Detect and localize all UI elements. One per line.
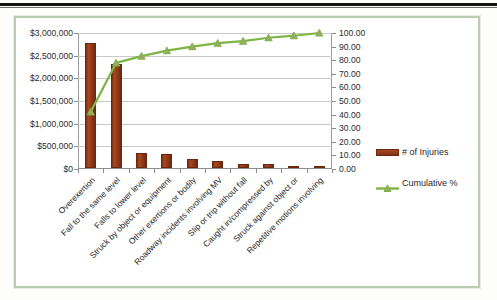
y-axis-left-tick-label: $1,500,000	[30, 96, 73, 106]
y-axis-right-tick	[332, 155, 336, 156]
y-axis-right-tick-label: 60.00	[339, 82, 361, 92]
y-axis-right-tick-label: 90.00	[339, 42, 361, 52]
x-axis-tick	[180, 169, 181, 173]
y-axis-right-tick-label: 30.00	[339, 123, 361, 133]
chart-container[interactable]: $0$500,000$1,000,000$1,500,000$2,000,000…	[14, 16, 480, 288]
y-axis-right-tick	[332, 74, 336, 75]
line-series-cumulative	[78, 33, 332, 169]
y-axis-right-tick	[332, 87, 336, 88]
chart-legend: # of Injuries Cumulative %	[376, 146, 480, 208]
x-axis-tick	[307, 169, 308, 173]
y-axis-left-tick-label: $3,000,000	[30, 28, 73, 38]
y-axis-right-tick-label: 70.00	[339, 69, 361, 79]
y-axis-left-tick-label: $2,000,000	[30, 73, 73, 83]
y-axis-right-tick-label: 80.00	[339, 55, 361, 65]
legend-label-injuries: # of Injuries	[402, 147, 449, 157]
page-top-rule-thin	[0, 7, 497, 8]
x-axis-tick	[129, 169, 130, 173]
y-axis-right-tick-label: 10.00	[339, 150, 361, 160]
y-axis-right-tick	[332, 142, 336, 143]
legend-item-injuries[interactable]: # of Injuries	[376, 146, 480, 158]
x-axis-tick	[154, 169, 155, 173]
legend-item-cumulative[interactable]: Cumulative %	[376, 177, 480, 189]
y-axis-left-tick-label: $0	[63, 164, 73, 174]
y-axis-right-tick	[332, 115, 336, 116]
page-canvas: $0$500,000$1,000,000$1,500,000$2,000,000…	[0, 0, 497, 300]
y-axis-right-tick-label: 0.00	[339, 164, 356, 174]
x-axis-tick	[78, 169, 79, 173]
y-axis-right-tick	[332, 47, 336, 48]
y-axis-right-tick	[332, 60, 336, 61]
y-axis-left-tick-label: $500,000	[37, 141, 73, 151]
x-axis-tick	[256, 169, 257, 173]
y-axis-right-tick-label: 20.00	[339, 137, 361, 147]
y-axis-right-tick	[332, 33, 336, 34]
line-swatch-icon	[376, 179, 399, 188]
x-axis-tick	[205, 169, 206, 173]
legend-label-cumulative: Cumulative %	[402, 178, 458, 188]
bar-swatch-icon	[376, 149, 399, 156]
y-axis-right-tick	[332, 128, 336, 129]
y-axis-right-tick-label: 40.00	[339, 110, 361, 120]
plot-area: $0$500,000$1,000,000$1,500,000$2,000,000…	[78, 33, 332, 169]
page-top-rule	[0, 3, 497, 6]
x-axis-tick	[332, 169, 333, 173]
y-axis-left-tick-label: $2,500,000	[30, 51, 73, 61]
cumulative-line	[91, 33, 320, 112]
x-axis-tick	[230, 169, 231, 173]
x-axis-tick	[281, 169, 282, 173]
y-axis-right-tick-label: 50.00	[339, 96, 361, 106]
y-axis-left-tick-label: $1,000,000	[30, 119, 73, 129]
y-axis-right-tick-label: 100.00	[339, 28, 365, 38]
y-axis-right-tick	[332, 101, 336, 102]
x-axis-tick	[103, 169, 104, 173]
